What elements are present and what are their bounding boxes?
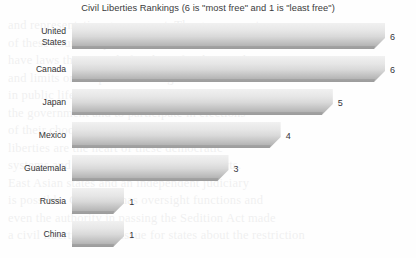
bar-body	[72, 23, 385, 49]
category-label-line: United	[41, 26, 66, 37]
bar-row: China1	[0, 218, 416, 251]
bar-row: Russia1	[0, 185, 416, 218]
bar-bevel	[72, 112, 323, 115]
bar-value-label: 5	[338, 86, 343, 119]
bar-guatemala	[72, 155, 229, 181]
bar-china	[72, 221, 124, 247]
bar-bevel	[72, 178, 219, 181]
bar-shape	[72, 122, 281, 148]
bar-row: Mexico4	[0, 119, 416, 152]
bar-body	[72, 89, 333, 115]
category-label-line: Canada	[36, 64, 66, 75]
bar-bevel	[72, 145, 271, 148]
bar-shape	[72, 155, 229, 181]
bar-value-label: 6	[390, 20, 395, 53]
bar-shape	[72, 56, 385, 82]
category-label-canada: Canada	[0, 53, 66, 86]
category-label-line: Russia	[40, 196, 66, 207]
category-label-guatemala: Guatemala	[0, 152, 66, 185]
bar-body	[72, 122, 281, 148]
bar-mexico	[72, 122, 281, 148]
chart-title: Civil Liberties Rankings (6 is "most fre…	[0, 3, 416, 13]
bar-value-label: 4	[286, 119, 291, 152]
bar-body	[72, 155, 229, 181]
bar-value-label: 3	[234, 152, 239, 185]
bar-bevel	[72, 244, 114, 247]
category-label-line: Japan	[43, 97, 66, 108]
bar-canada	[72, 56, 385, 82]
category-label-japan: Japan	[0, 86, 66, 119]
category-label-russia: Russia	[0, 185, 66, 218]
category-label-united-states: UnitedStates	[0, 20, 66, 53]
bar-value-label: 1	[129, 218, 134, 251]
category-label-line: Guatemala	[24, 163, 66, 174]
bar-body	[72, 188, 124, 214]
bar-row: Guatemala3	[0, 152, 416, 185]
category-label-line: China	[44, 229, 66, 240]
bar-body	[72, 56, 385, 82]
category-label-mexico: Mexico	[0, 119, 66, 152]
bar-value-label: 6	[390, 53, 395, 86]
bar-united-states	[72, 23, 385, 49]
bar-value-label: 1	[129, 185, 134, 218]
bar-japan	[72, 89, 333, 115]
bar-shape	[72, 188, 124, 214]
category-label-line: States	[42, 37, 66, 48]
bar-body	[72, 221, 124, 247]
bar-bevel	[72, 79, 375, 82]
bar-shape	[72, 23, 385, 49]
bar-row: UnitedStates6	[0, 20, 416, 53]
bar-row: Canada6	[0, 53, 416, 86]
plot-area: UnitedStates6Canada6Japan5Mexico4Guatema…	[0, 20, 416, 258]
bar-bevel	[72, 211, 114, 214]
category-label-china: China	[0, 218, 66, 251]
category-label-line: Mexico	[39, 130, 66, 141]
bar-russia	[72, 188, 124, 214]
bar-shape	[72, 89, 333, 115]
bar-shape	[72, 221, 124, 247]
bar-bevel	[72, 46, 375, 49]
civil-liberties-bar-chart: and representative government. The gover…	[0, 0, 416, 258]
bar-row: Japan5	[0, 86, 416, 119]
